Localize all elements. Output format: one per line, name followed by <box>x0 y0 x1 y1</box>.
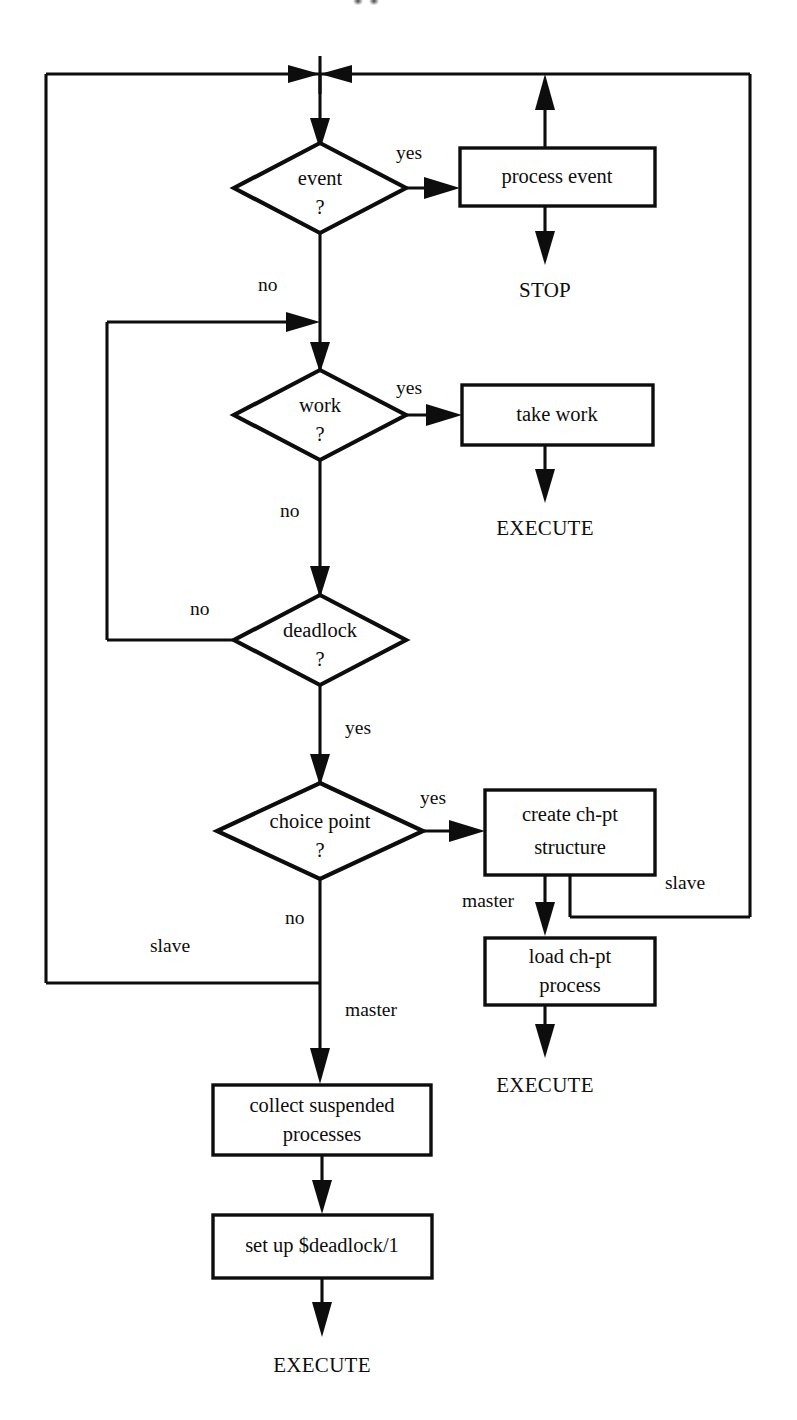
edge-label-work-yes: yes <box>396 377 422 398</box>
node-collect-suspended: collect suspended processes <box>213 1085 431 1155</box>
edge-label-work-no: no <box>280 500 300 521</box>
edge-process-event-to-rail <box>535 74 555 148</box>
node-take-work-label: take work <box>516 403 598 425</box>
edge-event-no: no <box>258 233 330 373</box>
node-work-label-2: ? <box>315 423 324 445</box>
edge-label-choice-yes: yes <box>420 787 446 808</box>
edge-label-chpt-slave: slave <box>665 872 705 893</box>
node-load-chpt-label-1: load ch-pt <box>529 945 612 968</box>
node-create-chpt-label-2: structure <box>534 836 606 858</box>
edge-load-chpt-to-execute: EXECUTE <box>496 1005 594 1097</box>
node-collect-suspended-label-1: collect suspended <box>249 1094 394 1117</box>
edge-label-event-no: no <box>258 274 278 295</box>
edge-label-event-yes: yes <box>396 142 422 163</box>
edge-setup-to-execute: EXECUTE <box>273 1278 371 1377</box>
node-take-work: take work <box>462 385 653 445</box>
node-choice-point-label-2: ? <box>315 839 324 861</box>
node-create-chpt-label-1: create ch-pt <box>522 803 618 826</box>
node-load-chpt-label-2: process <box>539 974 601 997</box>
node-choice-point-label-1: choice point <box>270 810 371 833</box>
node-deadlock: deadlock ? <box>234 595 406 685</box>
node-load-chpt: load ch-pt process <box>485 938 655 1005</box>
edge-label-chpt-master: master <box>462 890 514 911</box>
node-event-label-2: ? <box>315 196 324 218</box>
node-work-label-1: work <box>299 394 342 416</box>
edge-process-event-to-stop: STOP <box>519 206 571 302</box>
edge-rail-to-event <box>310 74 330 150</box>
edge-chpt-master: master <box>462 875 555 936</box>
edge-label-deadlock-yes: yes <box>345 717 371 738</box>
edge-choice-yes: yes <box>420 787 485 842</box>
node-collect-suspended-label-2: processes <box>283 1123 362 1146</box>
edge-work-yes: yes <box>396 377 462 426</box>
edge-label-deadlock-no: no <box>190 598 210 619</box>
node-execute-deadlock-label: EXECUTE <box>273 1353 371 1377</box>
node-execute-take-work-label: EXECUTE <box>496 516 594 540</box>
node-process-event: process event <box>460 148 655 206</box>
node-deadlock-label-2: ? <box>315 648 324 670</box>
edge-label-choice-master: master <box>345 999 397 1020</box>
edge-label-choice-slave: slave <box>150 935 190 956</box>
edge-deadlock-no-loop <box>107 312 320 640</box>
edge-deadlock-yes: yes <box>310 685 371 786</box>
node-event: event ? <box>234 143 406 233</box>
node-deadlock-label-1: deadlock <box>283 619 358 641</box>
edge-collect-to-setup <box>312 1155 332 1214</box>
node-execute-load-chpt-label: EXECUTE <box>496 1073 594 1097</box>
edge-choice-slave: slave <box>46 935 320 983</box>
edge-work-no: no <box>280 460 330 598</box>
node-event-label-1: event <box>298 167 343 189</box>
node-stop-label: STOP <box>519 278 571 302</box>
edge-deadlock-no: no <box>107 598 234 640</box>
flowchart-figure: event ? yes process event STOP no <box>0 0 797 1420</box>
node-process-event-label: process event <box>502 165 613 188</box>
node-create-chpt: create ch-pt structure <box>485 790 655 875</box>
node-set-up-deadlock-label: set up $deadlock/1 <box>245 1234 399 1257</box>
edge-label-choice-no: no <box>285 907 305 928</box>
node-work: work ? <box>234 370 406 460</box>
edge-chpt-slave: slave <box>570 872 750 917</box>
node-choice-point: choice point ? <box>217 783 423 879</box>
edge-take-work-to-execute: EXECUTE <box>496 445 594 540</box>
node-set-up-deadlock: set up $deadlock/1 <box>213 1215 432 1278</box>
flowchart-canvas: event ? yes process event STOP no <box>0 0 797 1420</box>
